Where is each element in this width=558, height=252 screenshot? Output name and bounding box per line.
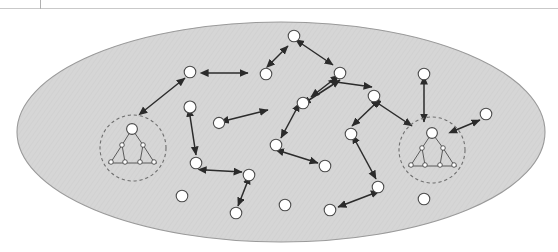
cluster-leaf-node	[123, 160, 128, 165]
peer-node	[184, 101, 196, 113]
cluster-leaf-node	[409, 163, 414, 168]
cluster-root-node	[427, 128, 438, 139]
peer-node	[297, 97, 309, 109]
peer-node	[260, 68, 272, 80]
peer-node	[418, 193, 430, 205]
cluster-root-node	[127, 124, 138, 135]
peer-node	[334, 67, 346, 79]
peer-node	[418, 68, 430, 80]
peer-node	[270, 139, 282, 151]
peer-node	[288, 30, 300, 42]
cluster-leaf-node	[138, 160, 143, 165]
peer-node	[368, 90, 380, 102]
figure-page	[0, 0, 558, 252]
cluster-leaf-node	[120, 143, 125, 148]
peer-node	[480, 108, 492, 120]
cluster-leaf-node	[152, 160, 157, 165]
peer-node	[190, 157, 202, 169]
peer-node	[176, 190, 188, 202]
cluster-leaf-node	[441, 146, 446, 151]
peer-node	[279, 199, 291, 211]
peer-node	[213, 117, 224, 128]
cluster-leaf-node	[420, 146, 425, 151]
network-diagram	[0, 0, 558, 252]
peer-node	[243, 169, 255, 181]
peer-node	[230, 207, 242, 219]
cluster-leaf-node	[141, 143, 146, 148]
cluster-leaf-node	[423, 163, 428, 168]
peer-node	[324, 204, 336, 216]
cluster-leaf-node	[109, 160, 114, 165]
peer-node	[372, 181, 384, 193]
cluster-leaf-node	[438, 163, 443, 168]
peer-node	[319, 160, 331, 172]
peer-node	[345, 128, 357, 140]
cluster-leaf-node	[452, 163, 457, 168]
peer-node	[184, 66, 196, 78]
